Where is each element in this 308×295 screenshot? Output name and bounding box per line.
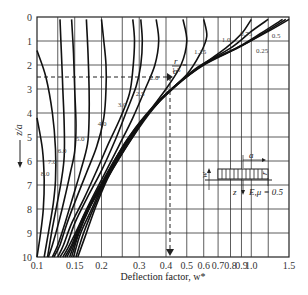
y-axis-ticks: 012345678910	[22, 12, 32, 263]
y-tick-label: 8	[27, 204, 32, 215]
curve-label: 2.5	[136, 90, 145, 98]
curve	[37, 118, 44, 257]
y-tick-label: 7	[27, 180, 32, 191]
curve-labels: 0.250.50.751.01.251.52.02.53.04.05.06.07…	[41, 30, 281, 178]
curve-label: 1.25	[194, 48, 207, 56]
y-tick-label: 3	[27, 84, 32, 95]
curve-label: 3.0	[118, 101, 127, 109]
inset-r-label: r	[259, 171, 269, 175]
curve	[72, 19, 269, 257]
inset-z-label: z	[232, 187, 237, 197]
curve-label: 6.0	[58, 147, 67, 155]
y-tick-label: 4	[27, 108, 32, 119]
x-tick-label: 0.4	[160, 260, 173, 271]
curve	[76, 19, 286, 257]
curve-label: 7.0	[48, 158, 57, 166]
y-tick-label: 1	[27, 36, 32, 47]
x-tick-label: 0.5	[181, 260, 194, 271]
y-tick-label: 10	[22, 252, 32, 263]
curve	[78, 19, 289, 257]
deflection-chart: 0.250.50.751.01.251.52.02.53.04.05.06.07…	[0, 0, 308, 295]
y-tick-label: 2	[27, 60, 32, 71]
curve-label: 8.0	[41, 170, 50, 178]
curve-label: 1.0	[222, 36, 231, 44]
curve-label: 0.25	[256, 47, 269, 55]
y-tick-label: 0	[27, 12, 32, 23]
curve-label: 0.5	[272, 32, 281, 40]
y-axis-label: z/a	[13, 124, 24, 168]
r-numerator: r	[174, 56, 178, 66]
x-tick-label: 0.3	[133, 260, 146, 271]
y-axis-label-text: z/a	[13, 124, 24, 137]
equals: =	[182, 60, 187, 70]
curve-label: 0.75	[240, 30, 253, 38]
inset-a-label: a	[249, 150, 254, 160]
x-axis-label: Deflection factor, w*	[121, 271, 206, 282]
y-tick-label: 5	[27, 132, 32, 143]
x-tick-label: 1.0	[245, 260, 258, 271]
down-arrow-head-icon	[18, 162, 23, 168]
x-tick-label: 0.6	[197, 260, 210, 271]
curve-label: 5.0	[76, 135, 85, 143]
x-axis-ticks: 0.10.150.20.30.40.50.60.70.80.91.01.5	[31, 260, 296, 271]
curve-label: 4.0	[98, 120, 107, 128]
y-tick-label: 9	[27, 228, 32, 239]
y-tick-label: 6	[27, 156, 32, 167]
a-denominator: a	[173, 66, 178, 76]
curve-label: 2.0	[150, 74, 159, 82]
inset-material-label: E,μ = 0.5	[248, 187, 284, 197]
x-tick-label: 0.15	[66, 260, 84, 271]
x-tick-label: 0.2	[95, 260, 108, 271]
x-tick-label: 0.1	[31, 260, 44, 271]
x-tick-label: 1.5	[283, 260, 296, 271]
x-tick-label: 0.7	[212, 260, 225, 271]
